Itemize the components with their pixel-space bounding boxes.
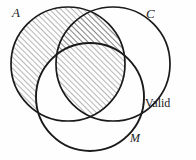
venn-diagram-canvas	[0, 0, 196, 160]
set-label-m: M	[130, 132, 140, 144]
venn-diagram-figure: A C M Valid	[0, 0, 196, 160]
set-label-c: C	[146, 7, 155, 20]
set-label-a: A	[12, 6, 20, 19]
validity-verdict-text: Valid	[145, 96, 170, 111]
